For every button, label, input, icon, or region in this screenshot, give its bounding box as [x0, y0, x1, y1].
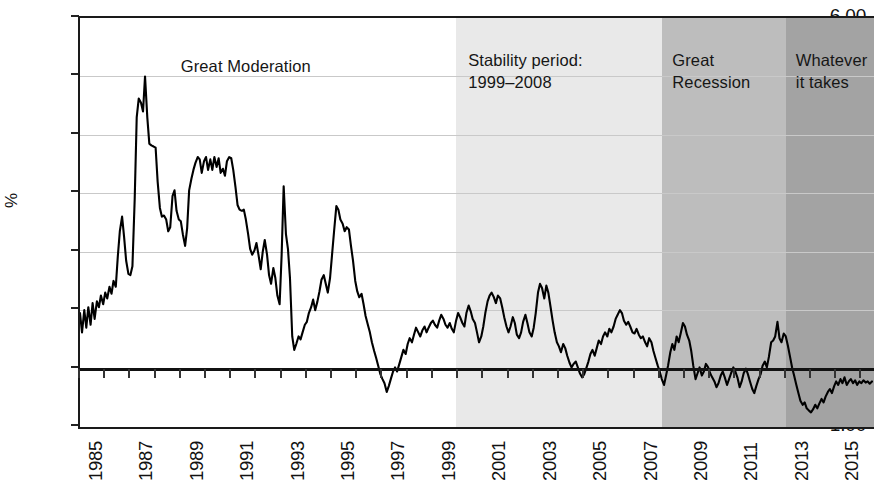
annotation-great-recession: Great Recession — [672, 50, 750, 94]
x-tick-mark-1999 — [431, 369, 433, 378]
x-tick-mark-2003 — [532, 369, 534, 378]
x-tick-label-1985: 1985 — [85, 441, 107, 481]
x-tick-mark-2016 — [859, 369, 861, 378]
x-tick-mark-1985 — [78, 369, 80, 378]
x-tick-mark-2005 — [582, 369, 584, 378]
x-tick-mark-2015 — [834, 369, 836, 378]
x-tick-label-2001: 2001 — [488, 441, 510, 481]
x-tick-mark-2007 — [633, 369, 635, 378]
x-tick-label-1989: 1989 — [186, 441, 208, 481]
x-tick-mark-2008 — [658, 369, 660, 378]
x-tick-mark-2004 — [557, 369, 559, 378]
x-tick-label-1993: 1993 — [287, 441, 309, 481]
x-tick-mark-1996 — [355, 369, 357, 378]
x-tick-mark-2014 — [809, 369, 811, 378]
plot-area: Great ModerationStability period: 1999–2… — [78, 16, 874, 429]
x-tick-mark-1986 — [103, 369, 105, 378]
x-tick-mark-1988 — [154, 369, 156, 378]
x-tick-mark-1991 — [229, 369, 231, 378]
x-tick-mark-1994 — [305, 369, 307, 378]
x-tick-label-1987: 1987 — [135, 441, 157, 481]
x-tick-mark-1992 — [254, 369, 256, 378]
x-tick-mark-1995 — [330, 369, 332, 378]
x-tick-mark-2006 — [607, 369, 609, 378]
x-tick-mark-1987 — [128, 369, 130, 378]
x-tick-label-1995: 1995 — [337, 441, 359, 481]
x-tick-label-2013: 2013 — [791, 441, 813, 481]
y-axis-title: % — [2, 193, 22, 208]
x-tick-mark-1993 — [280, 369, 282, 378]
x-tick-mark-2009 — [683, 369, 685, 378]
annotation-great-moderation: Great Moderation — [181, 56, 311, 78]
x-tick-label-2007: 2007 — [640, 441, 662, 481]
inflation-chart: % 6.005.004.003.002.001.000.00–1.00 Grea… — [0, 0, 876, 486]
x-tick-mark-2011 — [733, 369, 735, 378]
x-tick-label-2009: 2009 — [690, 441, 712, 481]
x-tick-mark-1989 — [179, 369, 181, 378]
zero-line — [80, 368, 874, 371]
annotation-stability-period: Stability period: 1999–2008 — [468, 50, 583, 94]
x-tick-mark-2001 — [481, 369, 483, 378]
annotation-whatever-it-takes: Whatever it takes — [796, 50, 867, 94]
x-tick-mark-2010 — [708, 369, 710, 378]
x-tick-mark-1990 — [204, 369, 206, 378]
x-tick-label-2005: 2005 — [589, 441, 611, 481]
x-tick-label-1999: 1999 — [438, 441, 460, 481]
x-tick-mark-1998 — [406, 369, 408, 378]
x-tick-label-2003: 2003 — [539, 441, 561, 481]
x-tick-mark-2000 — [456, 369, 458, 378]
x-tick-label-1997: 1997 — [387, 441, 409, 481]
x-tick-label-1991: 1991 — [236, 441, 258, 481]
x-tick-label-2015: 2015 — [841, 441, 863, 481]
x-tick-mark-1997 — [380, 369, 382, 378]
x-tick-mark-2013 — [784, 369, 786, 378]
x-tick-mark-2012 — [759, 369, 761, 378]
x-tick-label-2011: 2011 — [740, 442, 762, 481]
x-tick-mark-2002 — [507, 369, 509, 378]
